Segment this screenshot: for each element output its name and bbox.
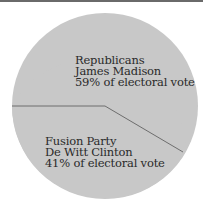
fusion-label: Fusion Party De Witt Clinton 41% of elec… [45, 136, 165, 169]
vote-share: 41% of electoral vote [45, 158, 165, 169]
pie-chart [0, 0, 203, 205]
vote-share: 59% of electoral vote [75, 77, 195, 88]
republicans-label: Republicans James Madison 59% of elector… [75, 55, 195, 88]
